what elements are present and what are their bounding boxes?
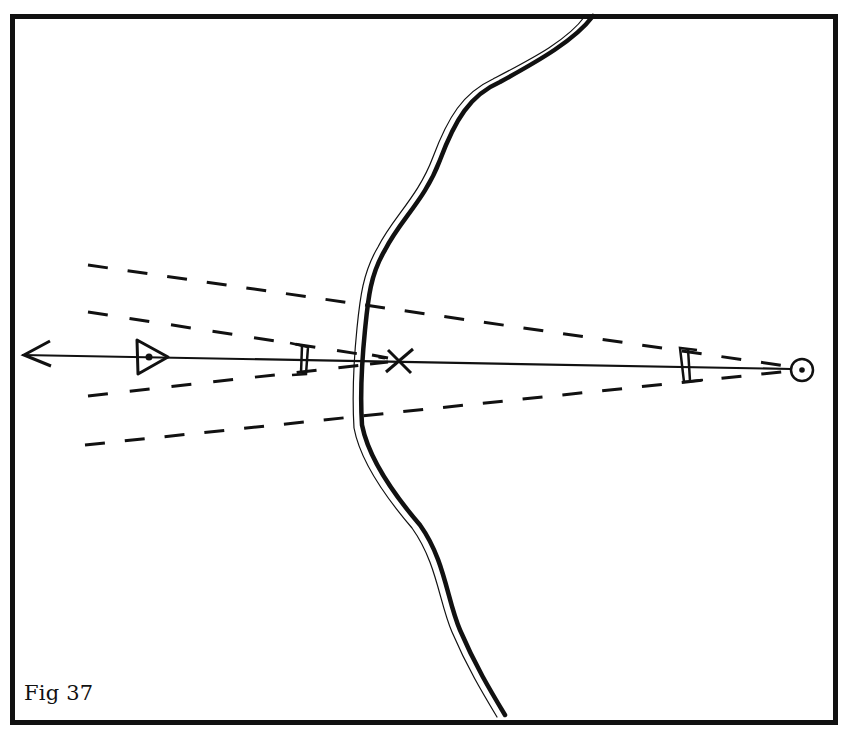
inner-error-cone <box>88 312 385 396</box>
river <box>353 16 593 717</box>
figure-frame <box>13 17 836 723</box>
navigation-diagram <box>0 0 848 737</box>
outer-error-cone <box>85 265 800 445</box>
river-bank-thin <box>353 16 585 717</box>
figure-caption: Fig 37 <box>24 681 93 705</box>
start-point-icon <box>791 359 813 381</box>
arrowhead-icon <box>24 341 51 366</box>
target-arrow-icon <box>370 355 388 364</box>
